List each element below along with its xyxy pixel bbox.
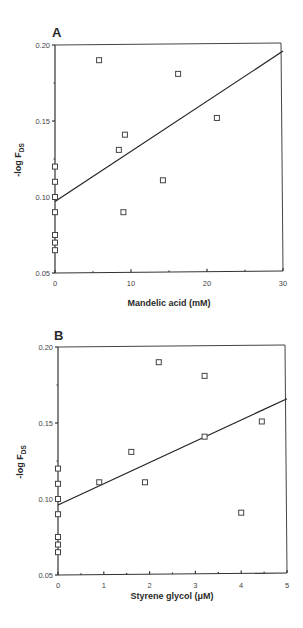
- data-point-marker: [97, 480, 102, 485]
- x-tick-label: 3: [193, 581, 197, 590]
- top-border: [58, 345, 285, 347]
- x-tick-label: 10: [127, 279, 135, 288]
- data-point-marker: [56, 497, 61, 502]
- x-axis-title: Styrene glycol (μM): [130, 591, 213, 601]
- y-axis-title: -log FDS: [15, 445, 27, 479]
- plot-frame: [58, 345, 287, 575]
- y-tick-label: 0.15: [35, 117, 50, 126]
- data-point-marker: [56, 466, 61, 471]
- x-tick-label: 4: [239, 581, 243, 590]
- data-point-marker: [202, 434, 207, 439]
- data-point-marker: [239, 510, 244, 515]
- data-point-marker: [259, 419, 264, 424]
- x-tick-label: 30: [279, 279, 287, 288]
- data-point-marker: [56, 542, 61, 547]
- y-axis-title: -log FDS: [13, 143, 25, 177]
- data-point-marker: [53, 240, 58, 245]
- data-point-marker: [143, 480, 148, 485]
- data-point-marker: [53, 195, 58, 200]
- x-axis-title: Mandelic acid (mM): [127, 298, 210, 308]
- data-points: [53, 58, 220, 253]
- y-tick-label: 0.05: [35, 269, 50, 278]
- y-tick-label: 0.10: [35, 193, 50, 202]
- data-point-marker: [122, 132, 127, 137]
- plot-frame: [55, 43, 283, 273]
- right-border: [281, 43, 283, 271]
- panel-b-label: B: [54, 328, 63, 343]
- y-tick-label: 0.05: [38, 571, 53, 580]
- y-tick-label: 0.10: [38, 495, 53, 504]
- top-border: [55, 43, 281, 45]
- data-point-marker: [121, 210, 126, 215]
- regression-line: [58, 399, 287, 505]
- y-tick-label: 0.20: [35, 41, 50, 50]
- x-tick-label: 5: [285, 581, 289, 590]
- data-point-marker: [56, 535, 61, 540]
- x-tick-label: 20: [203, 279, 211, 288]
- data-point-marker: [156, 360, 161, 365]
- panel-a-label: A: [52, 25, 62, 40]
- x-tick-label: 0: [56, 581, 60, 590]
- panel-a-chart: A 0.050.100.150.20 0102030 -log FDS Mand…: [13, 25, 287, 308]
- x-tick-label: 1: [102, 581, 106, 590]
- data-point-marker: [53, 210, 58, 215]
- regression-line: [55, 51, 283, 201]
- data-point-marker: [116, 147, 121, 152]
- data-point-marker: [56, 512, 61, 517]
- data-point-marker: [56, 481, 61, 486]
- fit-line: [58, 399, 287, 505]
- data-point-marker: [53, 179, 58, 184]
- data-point-marker: [53, 248, 58, 253]
- data-point-marker: [53, 164, 58, 169]
- y-tick-label: 0.20: [38, 343, 53, 352]
- panel-b-chart: B 0.050.100.150.20 012345 -log FDS Styre…: [15, 328, 289, 601]
- y-tick-label: 0.15: [38, 419, 53, 428]
- fit-line: [55, 51, 283, 201]
- data-point-marker: [176, 71, 181, 76]
- x-tick-label: 2: [148, 581, 152, 590]
- data-point-marker: [56, 550, 61, 555]
- data-point-marker: [129, 449, 134, 454]
- data-point-marker: [214, 115, 219, 120]
- data-point-marker: [97, 58, 102, 63]
- data-point-marker: [202, 373, 207, 378]
- figure: A 0.050.100.150.20 0102030 -log FDS Mand…: [0, 0, 303, 628]
- data-point-marker: [160, 178, 165, 183]
- right-border: [285, 345, 287, 573]
- x-tick-label: 0: [53, 279, 57, 288]
- data-point-marker: [53, 233, 58, 238]
